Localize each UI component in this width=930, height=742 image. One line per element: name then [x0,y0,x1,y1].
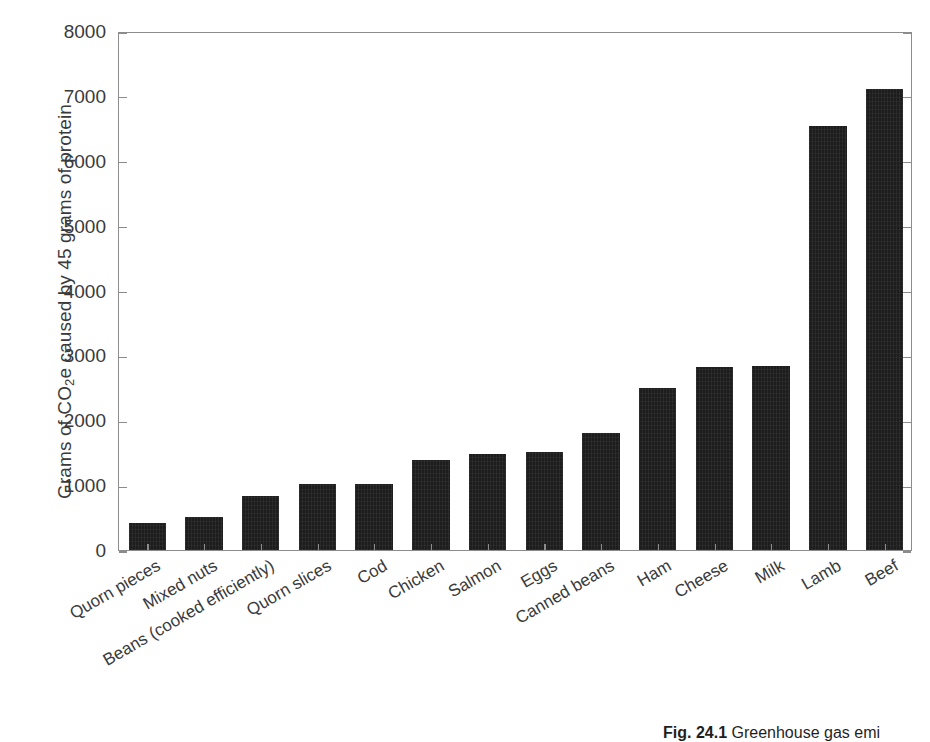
bar [809,126,846,550]
x-axis-tick [544,544,545,551]
bar-slot [696,33,733,550]
bar-slot [526,33,563,550]
y-tick-mark-right [903,551,911,552]
bar [696,367,733,550]
bar [752,366,789,550]
bar-slot [639,33,676,550]
bar-chart-figure: Grams of CO2e caused by 45 grams of prot… [0,0,930,742]
bar-slot [355,33,392,550]
bar-slot [582,33,619,550]
x-axis-tick [431,544,432,551]
x-axis-tick [204,544,205,551]
y-tick-label: 0 [95,540,106,562]
y-tick-mark-left [119,551,127,552]
y-axis-title-part2: e caused by 45 grams of protein [54,104,75,379]
bar-slot [866,33,903,550]
bar [242,496,279,550]
y-axis-title-subscript: 2 [62,379,77,386]
x-axis-tick [261,544,262,551]
bar-slot [809,33,846,550]
x-axis-tick [771,544,772,551]
y-tick-label: 8000 [64,21,106,43]
x-axis-tick [658,544,659,551]
figure-caption-number: Fig. 24.1 [663,724,727,741]
bar [866,89,903,550]
x-axis-tick [488,544,489,551]
bar-slot [412,33,449,550]
bar-slot [469,33,506,550]
bar [526,452,563,550]
bar-series [119,33,911,550]
x-axis-labels: Quorn piecesMixed nutsBeans (cooked effi… [118,556,912,686]
y-axis-title-part1: Grams of CO [54,386,75,499]
bar-slot [752,33,789,550]
plot-area: 010002000300040005000600070008000 [118,32,912,551]
x-axis-tick [828,544,829,551]
x-axis-tick [601,544,602,551]
y-axis-title: Grams of CO2e caused by 45 grams of prot… [54,42,77,562]
bar-slot [299,33,336,550]
x-axis-tick [147,544,148,551]
bar-slot [129,33,166,550]
bar [639,388,676,550]
bar [412,460,449,550]
bar-slot [242,33,279,550]
figure-caption: Fig. 24.1 Greenhouse gas emi [663,724,930,742]
bar-slot [185,33,222,550]
bar [582,433,619,550]
x-axis-tick [715,544,716,551]
bar [469,454,506,550]
x-axis-tick [318,544,319,551]
figure-caption-text: Greenhouse gas emi [731,724,880,741]
x-axis-tick [374,544,375,551]
bar [299,484,336,550]
x-axis-tick [885,544,886,551]
bar [355,484,392,550]
